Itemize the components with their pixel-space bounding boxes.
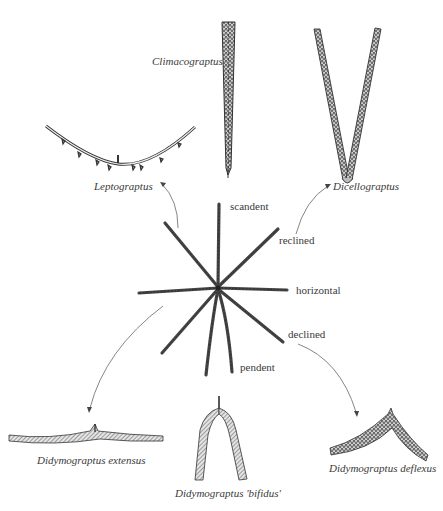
arrow-to-didymograptus-extensus bbox=[87, 306, 163, 413]
label-horizontal: horizontal bbox=[296, 285, 341, 296]
didymograptus-bifidus-fossil bbox=[195, 396, 247, 480]
label-reclined: reclined bbox=[279, 235, 314, 246]
dicellograptus-fossil bbox=[314, 28, 381, 183]
label-pendent: pendent bbox=[240, 362, 275, 373]
leptograptus-fossil bbox=[46, 126, 195, 170]
label-scandent: scandent bbox=[230, 201, 268, 212]
arrow-to-dicellograptus bbox=[296, 184, 331, 234]
label-didymograptus-extensus: Didymograptus extensus bbox=[37, 455, 145, 466]
label-didymograptus-bifidus: Didymograptus 'bifidus' bbox=[175, 488, 281, 499]
label-dicellograptus: Dicellograptus bbox=[333, 181, 399, 192]
label-leptograptus: Leptograptus bbox=[94, 181, 153, 192]
didymograptus-deflexus-fossil bbox=[330, 408, 428, 461]
label-climacograptus: Climacograptus bbox=[152, 56, 223, 67]
arrow-to-didymograptus-deflexus bbox=[298, 344, 359, 417]
label-didymograptus-deflexus: Didymograptus deflexus bbox=[329, 463, 436, 474]
didymograptus-extensus-fossil bbox=[9, 424, 163, 443]
orientation-star bbox=[139, 204, 287, 375]
label-declined: declined bbox=[288, 329, 325, 340]
arrow-to-leptograptus bbox=[160, 182, 178, 228]
graptolite-diagram bbox=[0, 0, 443, 511]
climacograptus-fossil bbox=[222, 22, 235, 178]
